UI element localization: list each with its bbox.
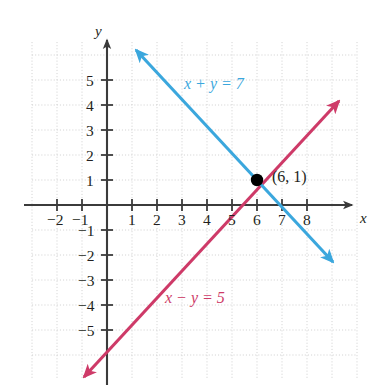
y-tick-label--3: −3 — [78, 273, 95, 289]
y-tick-label--1: −1 — [78, 223, 95, 239]
x-tick-label-8: 8 — [303, 212, 311, 228]
intersection-point-dot — [251, 174, 263, 186]
red-equation-label: x − y = 5 — [165, 290, 225, 306]
y-tick-label-5: 5 — [86, 73, 94, 89]
intersection-point-label: (6, 1) — [272, 169, 307, 185]
y-tick-label-3: 3 — [86, 123, 94, 139]
x-axis-label: x — [360, 211, 367, 226]
y-tick-label-1: 1 — [86, 173, 94, 189]
x-tick-label-7: 7 — [278, 212, 286, 228]
x-tick-label--2: −2 — [47, 212, 64, 228]
x-tick-label-2: 2 — [153, 212, 161, 228]
x-tick-label-1: 1 — [128, 212, 136, 228]
x-tick-label-5: 5 — [228, 212, 236, 228]
x-tick-label-4: 4 — [203, 212, 211, 228]
blue-equation-label: x + y = 7 — [184, 76, 244, 92]
x-tick-label-3: 3 — [178, 212, 186, 228]
y-tick-label--5: −5 — [78, 323, 95, 339]
y-tick-label--4: −4 — [78, 298, 95, 314]
y-axis-label: y — [95, 24, 102, 39]
y-tick-label-2: 2 — [86, 148, 94, 164]
y-tick-label--2: −2 — [78, 248, 95, 264]
graph-figure: −2 −1 1 2 3 4 5 6 7 8 5 4 3 2 1 −1 −2 −3… — [0, 0, 384, 392]
x-tick-label-6: 6 — [253, 212, 261, 228]
coordinate-plane-svg — [0, 0, 384, 392]
y-tick-label-4: 4 — [86, 98, 94, 114]
line-x-minus-y-equals-5 — [84, 101, 339, 377]
